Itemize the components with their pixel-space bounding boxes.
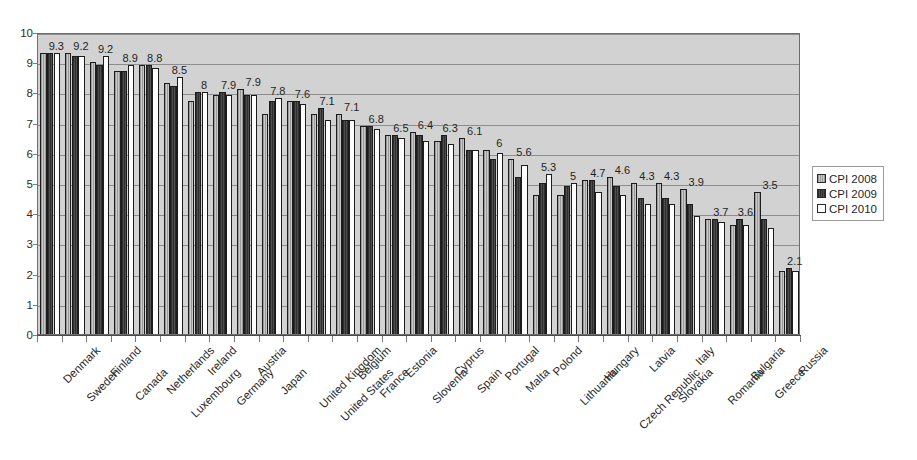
y-tick-label: 2 — [0, 269, 33, 281]
bar-s2009 — [490, 159, 496, 334]
bar-value-label: 7.1 — [319, 95, 334, 107]
bar-s2009 — [96, 65, 102, 334]
bar-s2010 — [226, 95, 232, 334]
bar-s2009 — [342, 120, 348, 334]
bar-s2008 — [90, 62, 96, 334]
bar-value-label: 7.9 — [221, 79, 236, 91]
bar-s2009 — [466, 150, 472, 334]
bars-layer: 9.39.29.28.98.88.587.97.97.87.67.17.16.8… — [38, 34, 799, 334]
bar-s2010 — [78, 56, 84, 334]
bar-group — [730, 34, 750, 334]
bar-s2010 — [152, 68, 158, 334]
bar-group — [557, 34, 577, 334]
x-axis-label: Russia — [796, 344, 829, 377]
bar-s2009 — [515, 177, 521, 334]
bar-s2009 — [416, 135, 422, 334]
bar-value-label: 5 — [570, 170, 576, 182]
bar-s2010 — [251, 95, 257, 334]
bar-s2010 — [54, 53, 60, 334]
legend-swatch-icon — [817, 204, 826, 213]
bar-s2010 — [423, 141, 429, 334]
bar-s2010 — [571, 183, 577, 334]
bar-s2010 — [743, 225, 749, 334]
y-tick-label: 7 — [0, 118, 33, 130]
x-axis-label: Malta — [523, 366, 551, 394]
bar-s2010 — [177, 77, 183, 334]
bar-s2009 — [786, 268, 792, 334]
bar-value-label: 3.9 — [689, 176, 704, 188]
bar-group — [631, 34, 651, 334]
bar-s2010 — [374, 129, 380, 334]
bar-s2009 — [564, 186, 570, 334]
bar-value-label: 6.1 — [467, 125, 482, 137]
bar-group — [582, 34, 602, 334]
legend-swatch-icon — [817, 189, 826, 198]
bar-s2009 — [72, 56, 78, 334]
bar-s2008 — [262, 114, 268, 334]
bar-s2010 — [398, 138, 404, 334]
bar-value-label: 8.5 — [172, 64, 187, 76]
bar-s2008 — [139, 65, 145, 334]
bar-s2008 — [336, 114, 342, 334]
bar-s2008 — [410, 132, 416, 334]
bar-s2010 — [202, 92, 208, 334]
x-axis-label: Japan — [278, 366, 309, 397]
bar-value-label: 4.7 — [590, 167, 605, 179]
bar-value-label: 4.6 — [615, 164, 630, 176]
bar-group — [139, 34, 159, 334]
bar-s2010 — [448, 144, 454, 334]
bar-s2010 — [349, 120, 355, 334]
y-tick-label: 10 — [0, 27, 33, 39]
bar-s2010 — [275, 98, 281, 334]
bar-s2008 — [705, 219, 711, 334]
bar-s2008 — [557, 195, 563, 334]
bar-value-label: 6.3 — [442, 122, 457, 134]
bar-group — [434, 34, 454, 334]
bar-s2008 — [754, 192, 760, 334]
bar-s2008 — [582, 180, 588, 334]
bar-s2009 — [736, 219, 742, 334]
bar-s2008 — [65, 53, 71, 334]
bar-value-label: 7.6 — [295, 88, 310, 100]
bar-s2009 — [121, 71, 127, 334]
x-axis-label: Canada — [133, 366, 170, 403]
bar-group — [40, 34, 60, 334]
bar-s2010 — [300, 104, 306, 334]
y-tick-label: 9 — [0, 57, 33, 69]
bar-s2008 — [360, 126, 366, 334]
bar-value-label: 5.3 — [541, 161, 556, 173]
x-axis-label: Bulgaria — [749, 344, 787, 382]
bar-s2008 — [656, 183, 662, 334]
bar-s2010 — [645, 204, 651, 334]
bar-s2010 — [669, 204, 675, 334]
bar-s2008 — [779, 271, 785, 334]
bar-s2009 — [244, 95, 250, 334]
bar-s2008 — [607, 177, 613, 334]
bar-s2009 — [195, 92, 201, 334]
bar-s2009 — [539, 183, 545, 334]
bar-s2008 — [631, 183, 637, 334]
x-axis-label: Finland — [108, 344, 143, 379]
bar-group — [336, 34, 356, 334]
bar-group — [459, 34, 479, 334]
bar-value-label: 6.8 — [369, 113, 384, 125]
legend-item: CPI 2010 — [817, 201, 877, 216]
bar-value-label: 8.8 — [147, 52, 162, 64]
bar-s2008 — [311, 114, 317, 334]
bar-value-label: 6 — [496, 137, 502, 149]
bar-value-label: 6.5 — [393, 122, 408, 134]
bar-value-label: 9.3 — [49, 40, 64, 52]
bar-s2010 — [521, 165, 527, 334]
bar-group — [360, 34, 380, 334]
bar-group — [262, 34, 282, 334]
bar-group — [607, 34, 627, 334]
bar-s2010 — [325, 120, 331, 334]
bar-s2008 — [114, 71, 120, 334]
bar-s2008 — [188, 101, 194, 334]
bar-s2010 — [792, 271, 798, 334]
bar-s2010 — [128, 65, 134, 334]
plot-area: 9.39.29.28.98.88.587.97.97.87.67.17.16.8… — [37, 33, 800, 335]
bar-group — [287, 34, 307, 334]
bar-s2008 — [533, 195, 539, 334]
y-tick-label: 5 — [0, 178, 33, 190]
